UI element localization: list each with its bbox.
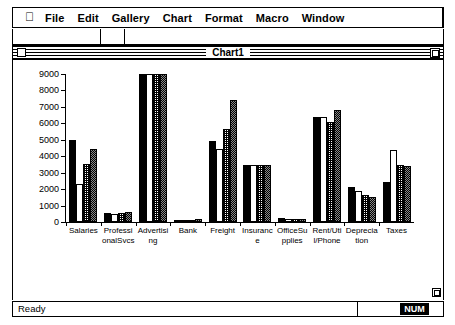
toolbar-section-middle[interactable]	[101, 29, 125, 44]
num-lock-badge: NUM	[400, 303, 429, 315]
x-axis-label: Insurance	[240, 226, 275, 245]
x-axis-label: Rent/Util/Phone	[310, 226, 345, 245]
bar[interactable]	[139, 74, 146, 222]
x-axis-label: Depreciation	[344, 226, 379, 245]
toolbar-section-left[interactable]	[13, 29, 101, 44]
bar[interactable]	[285, 219, 292, 222]
status-indicators: NUM	[358, 302, 443, 316]
bar-group[interactable]	[66, 74, 101, 222]
bar[interactable]	[83, 164, 90, 222]
bar[interactable]	[250, 165, 257, 222]
x-axis-label: Advertising	[136, 226, 171, 245]
bar-group[interactable]	[240, 74, 275, 222]
y-axis-tick-label: 1000	[39, 202, 59, 211]
bar-groups	[66, 74, 414, 222]
bar[interactable]	[216, 149, 223, 222]
toolbar	[12, 29, 444, 45]
window-title-bar[interactable]: Chart1	[13, 46, 443, 60]
bar[interactable]	[383, 182, 390, 222]
toolbar-section-right[interactable]	[125, 29, 443, 44]
bar-group[interactable]	[101, 74, 136, 222]
y-axis-tick-label: 9000	[39, 70, 59, 79]
bar[interactable]	[348, 187, 355, 222]
bar[interactable]	[299, 219, 306, 222]
bar[interactable]	[362, 195, 369, 222]
bar[interactable]	[146, 74, 153, 222]
bar[interactable]	[76, 184, 83, 222]
bar[interactable]	[69, 140, 76, 222]
bar[interactable]	[369, 197, 376, 222]
y-axis-tick-label: 8000	[39, 86, 59, 95]
bar[interactable]	[397, 165, 404, 222]
bar[interactable]	[153, 74, 160, 222]
resize-grip-icon[interactable]	[432, 288, 441, 297]
bar[interactable]	[355, 191, 362, 222]
y-axis-tick-label: 4000	[39, 152, 59, 161]
bar-group[interactable]	[379, 74, 414, 222]
bar[interactable]	[230, 100, 237, 222]
close-box-icon[interactable]	[17, 48, 26, 57]
bar[interactable]	[334, 110, 341, 222]
y-axis-tick-label: 7000	[39, 103, 59, 112]
bar[interactable]	[390, 150, 397, 222]
bar-group[interactable]	[205, 74, 240, 222]
x-axis-label: Taxes	[379, 226, 414, 245]
menu-item-chart[interactable]: Chart	[163, 12, 192, 24]
bar[interactable]	[111, 214, 118, 222]
bar[interactable]	[195, 219, 202, 222]
bar[interactable]	[313, 117, 320, 222]
y-axis-tick-label: 0	[54, 218, 59, 227]
bar[interactable]	[292, 219, 299, 222]
bar-group[interactable]	[275, 74, 310, 222]
chart-window: Chart1 010002000300040005000600070008000…	[12, 45, 444, 300]
status-bar: Ready NUM	[12, 301, 444, 317]
bar-group[interactable]	[310, 74, 345, 222]
bar-group[interactable]	[136, 74, 171, 222]
menu-item-gallery[interactable]: Gallery	[112, 12, 150, 24]
y-axis-tick-label: 3000	[39, 169, 59, 178]
x-axis-label: Freight	[205, 226, 240, 245]
bar[interactable]	[257, 165, 264, 222]
x-axis-labels: SalariesProfessionalSvcsAdvertisingBankF…	[66, 226, 414, 245]
x-axis-label: Salaries	[66, 226, 101, 245]
menu-item-window[interactable]: Window	[302, 12, 345, 24]
y-axis-tick-label: 6000	[39, 119, 59, 128]
bar[interactable]	[223, 129, 230, 222]
bar[interactable]	[209, 141, 216, 222]
bar[interactable]	[90, 149, 97, 222]
zoom-box-icon[interactable]	[430, 48, 440, 58]
bar[interactable]	[320, 117, 327, 222]
bar[interactable]	[104, 213, 111, 222]
bar[interactable]	[278, 218, 285, 222]
y-axis-tick-label: 2000	[39, 185, 59, 194]
bar[interactable]	[243, 165, 250, 222]
bar[interactable]	[404, 166, 411, 222]
bar-group[interactable]	[344, 74, 379, 222]
x-axis-label: Bank	[170, 226, 205, 245]
bar[interactable]	[327, 122, 334, 222]
x-axis-label: OfficeSupplies	[275, 226, 310, 245]
bar-group[interactable]	[170, 74, 205, 222]
menu-item-edit[interactable]: Edit	[77, 12, 98, 24]
x-axis-label: ProfessionalSvcs	[101, 226, 136, 245]
menu-item-macro[interactable]: Macro	[256, 12, 289, 24]
bar[interactable]	[125, 212, 132, 222]
window-title: Chart1	[206, 47, 250, 58]
bar[interactable]	[264, 165, 271, 222]
y-axis-tick-label: 5000	[39, 136, 59, 145]
bar[interactable]	[181, 220, 188, 222]
menu-bar:  File Edit Gallery Chart Format Macro W…	[12, 7, 444, 28]
menu-item-format[interactable]: Format	[205, 12, 243, 24]
bar[interactable]	[174, 220, 181, 222]
bar[interactable]	[160, 74, 167, 222]
apple-icon[interactable]: 	[25, 12, 34, 23]
bar[interactable]	[118, 213, 125, 222]
status-message: Ready	[13, 304, 357, 314]
menu-item-file[interactable]: File	[45, 12, 64, 24]
bar[interactable]	[188, 220, 195, 222]
application-window:  File Edit Gallery Chart Format Macro W…	[0, 0, 455, 325]
chart-canvas: 0100020003000400050006000700080009000 Sa…	[13, 60, 443, 300]
